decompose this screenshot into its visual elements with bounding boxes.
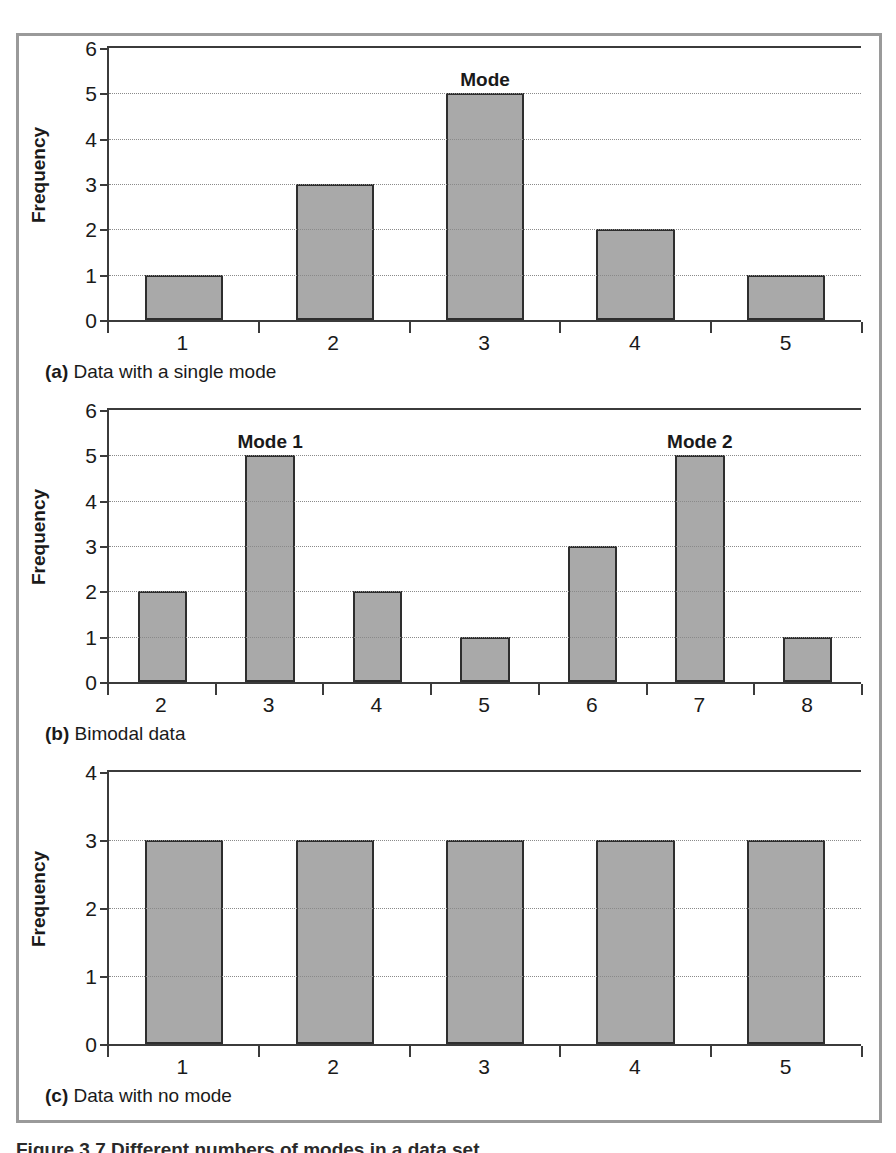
y-axis-tick-label: 6 [63, 400, 109, 421]
bar [568, 546, 617, 682]
panel-caption-a: (a) Data with a single mode [45, 362, 276, 383]
panel-caption-c: (c) Data with no mode [45, 1086, 232, 1107]
y-axis-tick-label: 1 [63, 626, 109, 647]
y-axis-tick-label: 4 [63, 762, 109, 783]
y-axis-tick-label: 6 [63, 38, 109, 59]
figure-box: Frequency Mode 0123456 12345 (a) Data wi… [16, 33, 882, 1123]
x-axis-tick-label: 1 [107, 1056, 258, 1078]
y-axis-title-label-b: Frequency [28, 489, 50, 585]
panel-caption-marker-b: (b) [45, 723, 69, 744]
gridline [109, 976, 861, 977]
y-axis-tick-label: 5 [63, 445, 109, 466]
x-axis-tick-label: 5 [710, 332, 861, 354]
y-axis-tick-label: 4 [63, 490, 109, 511]
y-axis-title-c: Frequency [25, 764, 53, 1034]
y-axis-tick-label: 2 [63, 581, 109, 602]
x-axis-labels-a: 12345 [107, 332, 861, 354]
gridline [109, 908, 861, 909]
x-axis-labels-b: 2345678 [107, 694, 861, 716]
chart-panel-b: Frequency Mode 1Mode 2 0123456 2345678 (… [19, 402, 879, 754]
gridline [109, 637, 861, 638]
x-axis-tick-label: 6 [538, 694, 646, 716]
plot-area-a: Mode 0123456 [107, 46, 861, 322]
chart-panel-c: Frequency 01234 12345 (c) Data with no m… [19, 764, 879, 1116]
x-axis-tick-label: 5 [430, 694, 538, 716]
y-axis-title-label-c: Frequency [28, 851, 50, 947]
panel-caption-marker-a: (a) [45, 361, 68, 382]
bar [145, 840, 223, 1044]
panel-caption-text-b: Bimodal data [75, 723, 186, 744]
x-axis-tickmark [861, 684, 863, 695]
gridline [109, 591, 861, 592]
bar [296, 840, 374, 1044]
y-axis-tick-label: 0 [63, 310, 109, 331]
x-axis-tick-label: 7 [646, 694, 754, 716]
y-axis-tick-label: 1 [63, 264, 109, 285]
x-axis-tick-label: 3 [409, 332, 560, 354]
gridline [109, 501, 861, 502]
panel-caption-text-c: Data with no mode [74, 1085, 232, 1106]
gridline [109, 840, 861, 841]
y-axis-tick-label: 1 [63, 966, 109, 987]
bar-annotation-label: Mode [460, 70, 510, 89]
y-axis-tick-label: 2 [63, 898, 109, 919]
bar [747, 275, 825, 320]
gridline [109, 546, 861, 547]
y-axis-tick-label: 3 [63, 536, 109, 557]
panel-caption-text-a: Data with a single mode [74, 361, 277, 382]
bar: Mode 1 [245, 455, 294, 682]
bar [296, 184, 374, 320]
y-axis-tick-label: 2 [63, 219, 109, 240]
chart-panel-a: Frequency Mode 0123456 12345 (a) Data wi… [19, 40, 879, 392]
bar [596, 840, 674, 1044]
y-axis-tick-label: 3 [63, 830, 109, 851]
panel-caption-marker-c: (c) [45, 1085, 68, 1106]
x-axis-tick-label: 8 [753, 694, 861, 716]
x-axis-tick-label: 1 [107, 332, 258, 354]
y-axis-tick-label: 4 [63, 128, 109, 149]
bar [460, 637, 509, 682]
bar [446, 840, 524, 1044]
bar-annotation-label: Mode 2 [667, 432, 732, 451]
x-axis-tick-label: 3 [409, 1056, 560, 1078]
gridline [109, 229, 861, 230]
bar: Mode [446, 93, 524, 320]
y-axis-title-b: Frequency [25, 402, 53, 672]
x-axis-tick-label: 2 [107, 694, 215, 716]
bar: Mode 2 [675, 455, 724, 682]
bar [783, 637, 832, 682]
x-axis-tick-label: 4 [559, 1056, 710, 1078]
gridline [109, 93, 861, 94]
bar [145, 275, 223, 320]
x-axis-tick-label: 3 [215, 694, 323, 716]
gridline [109, 455, 861, 456]
x-axis-tick-label: 2 [258, 332, 409, 354]
x-axis-tickmark [861, 1046, 863, 1057]
figure-caption: Figure 3.7 Different numbers of modes in… [16, 1139, 716, 1153]
x-axis-tickmark [861, 322, 863, 333]
plot-area-c: 01234 [107, 770, 861, 1046]
y-axis-tick-label: 0 [63, 672, 109, 693]
x-axis-tick-label: 5 [710, 1056, 861, 1078]
y-axis-title-label-a: Frequency [28, 127, 50, 223]
gridline [109, 275, 861, 276]
y-axis-tick-label: 0 [63, 1034, 109, 1055]
x-axis-tick-label: 2 [258, 1056, 409, 1078]
x-axis-tick-label: 4 [322, 694, 430, 716]
panel-caption-b: (b) Bimodal data [45, 724, 185, 745]
x-axis-labels-c: 12345 [107, 1056, 861, 1078]
y-axis-tick-label: 3 [63, 174, 109, 195]
x-axis-tick-label: 4 [559, 332, 710, 354]
gridline [109, 184, 861, 185]
bar [747, 840, 825, 1044]
bar-annotation-label: Mode 1 [237, 432, 302, 451]
y-axis-title-a: Frequency [25, 40, 53, 310]
gridline [109, 139, 861, 140]
plot-area-b: Mode 1Mode 2 0123456 [107, 408, 861, 684]
y-axis-tick-label: 5 [63, 83, 109, 104]
